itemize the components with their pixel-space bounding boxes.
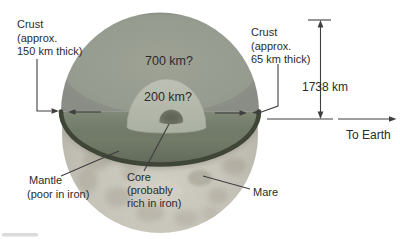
crust-left-label-line2: (approx. bbox=[17, 32, 57, 44]
crust-left-leader bbox=[37, 59, 51, 111]
crust-left-label-line1: Crust bbox=[17, 18, 43, 30]
mantle-label-line2: (poor in iron) bbox=[27, 188, 89, 200]
mantle-label-line1: Mantle bbox=[29, 174, 62, 186]
to-earth-label: To Earth bbox=[346, 128, 391, 142]
dimension-down-arrowhead bbox=[318, 112, 324, 120]
print-artifact bbox=[2, 233, 38, 237]
crust-left-leader-arrowhead bbox=[52, 108, 60, 114]
moon-cutaway-figure: Crust (approx. 150 km thick) Crust (appr… bbox=[0, 0, 400, 239]
crust-right-label-line2: (approx. bbox=[251, 40, 291, 52]
upper-mantle-depth-label: 700 km? bbox=[145, 54, 193, 68]
radius-label: 1738 km bbox=[302, 80, 348, 94]
mare-label: Mare bbox=[253, 186, 278, 198]
core-label-line3: rich in iron) bbox=[127, 197, 181, 209]
crust-left-label-line3: 150 km thick) bbox=[17, 45, 82, 57]
to-earth-arrowhead bbox=[389, 116, 397, 122]
core-label-line2: (probably bbox=[127, 184, 173, 196]
dimension-up-arrowhead bbox=[318, 20, 324, 28]
core-label-line1: Core bbox=[127, 171, 151, 183]
crust-right-label-line3: 65 km thick) bbox=[251, 53, 310, 65]
crust-right-label-line1: Crust bbox=[251, 26, 277, 38]
crust-right-leader bbox=[260, 64, 278, 113]
inner-layer-depth-label: 200 km? bbox=[144, 90, 192, 104]
moon-cutaway-diagram: Crust (approx. 150 km thick) Crust (appr… bbox=[0, 0, 400, 239]
